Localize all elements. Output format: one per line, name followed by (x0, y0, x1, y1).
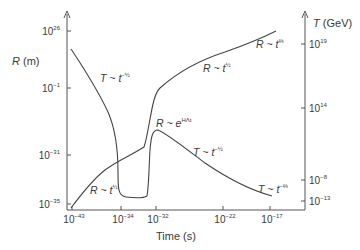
annotation-r-upper-right: R ~ t⅔ (256, 38, 283, 50)
left-tick-labels: 1026 10−1 10−31 10−35 (39, 25, 61, 210)
annotation-r-inflation: R ~ eHΛt (156, 117, 192, 129)
x-tick-labels: 10−43 10−34 10−32 10−22 10−17 (63, 213, 283, 225)
annotation-t-mid-right: T ~ t−½ (193, 146, 223, 158)
annotation-r-upper-mid: R ~ t½ (203, 62, 230, 74)
annotation-t-lower-right: T ~ t−⅔ (258, 183, 288, 195)
annotation-t-upper-left: T ~ t−½ (100, 72, 130, 84)
right-tick-label: 1019 (309, 38, 327, 50)
right-tick-label: 10−13 (309, 195, 331, 207)
right-tick-labels: 1019 1014 10−8 10−13 (309, 38, 331, 207)
left-axis-title: R (m) (12, 55, 40, 67)
annotation-r-lower-left: R ~ t½ (90, 184, 117, 196)
left-tick-label: 10−31 (39, 149, 61, 161)
cosmology-chart: 1026 10−1 10−31 10−35 1019 1014 10−8 10−… (0, 0, 360, 250)
x-tick-label: 10−34 (112, 213, 134, 225)
left-tick-label: 10−35 (39, 198, 61, 210)
right-axis-title: T (GeV) (313, 17, 352, 29)
x-axis-title: Time (s) (156, 230, 196, 242)
x-tick-label: 10−22 (214, 213, 236, 225)
x-tick-label: 10−17 (261, 213, 283, 225)
right-tick-label: 10−8 (309, 174, 328, 186)
x-tick-label: 10−43 (63, 213, 85, 225)
x-tick-label: 10−32 (147, 213, 169, 225)
left-tick-label: 10−1 (42, 82, 61, 94)
curve-annotations: T ~ t−½ R ~ t⅔ R ~ t½ R ~ eHΛt T ~ t−½ R… (90, 38, 288, 196)
right-tick-label: 1014 (309, 102, 327, 114)
left-tick-label: 1026 (42, 25, 60, 37)
